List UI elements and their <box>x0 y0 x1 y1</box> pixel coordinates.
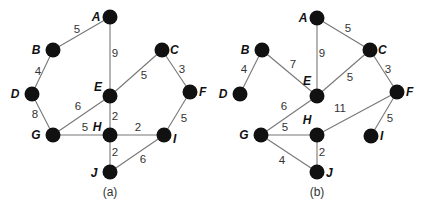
edge-weight-b-C-E: 5 <box>347 71 353 83</box>
edge-weight-b-H-J: 2 <box>319 146 325 158</box>
edge-weight-b-G-J: 4 <box>279 154 286 166</box>
node-label-a-A: A <box>91 10 101 24</box>
edge-weight-b-B-D: 4 <box>241 63 248 75</box>
node-a-G <box>46 128 61 143</box>
edge-weight-a-I-J: 6 <box>140 153 146 165</box>
node-label-a-D: D <box>11 87 20 101</box>
edge-weight-a-E-H: 2 <box>112 110 118 122</box>
edge-weight-a-A-E: 9 <box>112 47 118 59</box>
node-b-G <box>254 128 269 143</box>
edge-weight-b-B-E: 7 <box>290 58 296 70</box>
node-label-b-F: F <box>406 85 414 99</box>
edge-weight-b-A-C: 5 <box>345 22 351 34</box>
node-label-b-D: D <box>219 87 228 101</box>
node-a-E <box>103 89 118 104</box>
node-label-a-C: C <box>170 43 179 57</box>
node-label-a-E: E <box>94 80 103 94</box>
edge-weight-b-G-H: 5 <box>282 121 288 133</box>
node-label-b-H: H <box>303 113 312 127</box>
node-b-F <box>390 85 405 100</box>
nodes-layer <box>25 10 405 180</box>
edge-weight-a-A-B: 5 <box>74 23 80 35</box>
edge-weight-a-D-G: 8 <box>32 108 38 120</box>
edge-weight-b-A-E: 9 <box>319 47 325 59</box>
edge-weight-a-G-H: 5 <box>82 121 88 133</box>
node-b-A <box>310 11 325 26</box>
edge-weight-b-F-H: 11 <box>334 102 346 114</box>
node-a-F <box>183 85 198 100</box>
node-label-b-I: I <box>380 129 384 143</box>
edge-weight-a-E-G: 6 <box>75 100 81 112</box>
edge-weight-a-C-E: 5 <box>141 69 147 81</box>
edges-layer <box>32 17 397 172</box>
edge-a-A-B <box>53 17 110 50</box>
edge-weights-layer: 59453862552265947536115542 <box>32 22 393 166</box>
edge-weight-a-H-I: 2 <box>135 121 141 133</box>
edge-weight-b-E-G: 6 <box>281 100 287 112</box>
node-label-b-G: G <box>239 128 248 142</box>
edge-weight-a-C-F: 3 <box>179 63 185 75</box>
edge-weight-b-C-F: 3 <box>385 63 391 75</box>
node-b-D <box>233 87 248 102</box>
node-label-b-B: B <box>241 43 250 57</box>
node-label-b-E: E <box>303 74 312 88</box>
edge-b-F-H <box>317 92 397 135</box>
edge-weight-b-F-I: 5 <box>387 112 393 124</box>
captions-layer: (a)(b) <box>103 185 325 199</box>
node-b-B <box>255 43 270 58</box>
node-labels-layer: ABCDEFGHIJABCDEFGHIJ <box>11 10 414 180</box>
node-b-H <box>310 128 325 143</box>
graph-diagram: 59453862552265947536115542 ABCDEFGHIJABC… <box>0 0 427 207</box>
node-label-a-J: J <box>91 166 98 180</box>
node-label-a-G: G <box>31 128 40 142</box>
node-label-b-A: A <box>298 11 308 25</box>
caption-a: (a) <box>103 185 118 199</box>
node-a-B <box>46 43 61 58</box>
node-a-H <box>103 128 118 143</box>
node-a-A <box>103 10 118 25</box>
node-label-a-B: B <box>32 43 41 57</box>
node-a-J <box>103 165 118 180</box>
node-label-b-C: C <box>378 43 387 57</box>
node-a-C <box>155 43 170 58</box>
node-b-I <box>364 129 379 144</box>
edge-weight-a-H-J: 2 <box>112 146 118 158</box>
node-a-I <box>157 128 172 143</box>
node-label-b-J: J <box>326 166 333 180</box>
edge-weight-a-B-D: 4 <box>35 65 42 77</box>
node-b-C <box>363 43 378 58</box>
edge-weight-a-F-I: 5 <box>181 112 187 124</box>
edge-b-B-E <box>262 50 317 96</box>
edge-b-A-C <box>317 18 370 50</box>
node-a-D <box>25 87 40 102</box>
caption-b: (b) <box>310 185 325 199</box>
edge-b-G-J <box>261 135 317 172</box>
node-label-a-I: I <box>173 132 177 146</box>
node-b-E <box>310 89 325 104</box>
node-label-a-H: H <box>93 120 102 134</box>
node-label-a-F: F <box>199 85 207 99</box>
node-b-J <box>310 165 325 180</box>
